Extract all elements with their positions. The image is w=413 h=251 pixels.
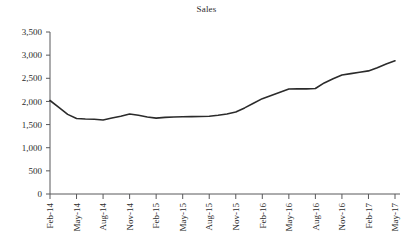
y-tick-label: 2,000 [22,97,43,107]
y-tick-label: 3,500 [22,27,43,37]
x-tick-label: Feb-14 [45,203,55,229]
x-axis-ticks [50,194,395,199]
sales-line-chart: Sales 05001,0001,5002,0002,5003,0003,500… [0,0,413,251]
y-tick-label: 1,500 [22,120,43,130]
sales-series-line [50,61,395,120]
x-tick-label: Nov-14 [125,203,135,231]
x-tick-label: Nov-16 [337,203,347,231]
x-tick-label: Aug-15 [204,203,214,231]
y-tick-label: 500 [29,166,43,176]
x-tick-label: May-15 [178,203,188,232]
chart-canvas: 05001,0001,5002,0002,5003,0003,500 Feb-1… [0,0,413,251]
x-tick-label: Aug-16 [311,203,321,231]
x-tick-label: Feb-15 [151,203,161,229]
y-tick-label: 1,000 [22,143,43,153]
x-tick-label: May-14 [72,203,82,232]
y-axis-ticks [46,32,50,194]
x-tick-label: May-17 [390,203,400,232]
x-tick-label: Aug-14 [98,203,108,231]
y-axis-labels: 05001,0001,5002,0002,5003,0003,500 [22,27,43,199]
x-tick-label: May-16 [284,203,294,232]
y-tick-label: 2,500 [22,73,43,83]
y-tick-label: 0 [38,189,43,199]
x-axis-labels: Feb-14May-14Aug-14Nov-14Feb-15May-15Aug-… [45,203,400,232]
x-tick-label: Feb-17 [364,203,374,229]
y-tick-label: 3,000 [22,50,43,60]
x-tick-label: Nov-15 [231,203,241,231]
x-tick-label: Feb-16 [258,203,268,229]
